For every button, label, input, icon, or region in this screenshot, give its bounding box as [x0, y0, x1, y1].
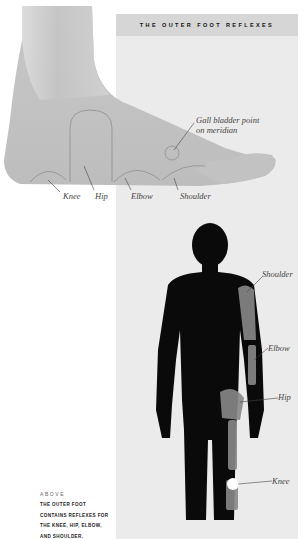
- body-label-hip: Hip: [278, 392, 291, 402]
- body-silhouette: [0, 0, 306, 539]
- caption-line: THE KNEE, HIP, ELBOW,: [40, 523, 109, 528]
- caption-kicker: ABOVE: [40, 491, 109, 497]
- body-label-knee: Knee: [272, 476, 289, 486]
- body-label-elbow: Elbow: [268, 343, 290, 353]
- caption-line: AND SHOULDER.: [40, 534, 109, 539]
- caption: ABOVE THE OUTER FOOT CONTAINS REFLEXES F…: [40, 491, 109, 539]
- body-label-shoulder: Shoulder: [262, 269, 293, 279]
- caption-line: THE OUTER FOOT: [40, 502, 109, 507]
- caption-line: CONTAINS REFLEXES FOR: [40, 513, 109, 518]
